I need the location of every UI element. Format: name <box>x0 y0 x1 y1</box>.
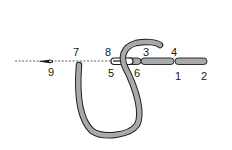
label-4: 4 <box>171 47 177 58</box>
label-6: 6 <box>134 68 140 79</box>
needle-icon <box>38 60 53 64</box>
label-9: 9 <box>48 67 54 78</box>
label-5: 5 <box>108 68 114 79</box>
label-3: 3 <box>143 47 149 58</box>
label-2: 2 <box>201 71 207 82</box>
stitch-segment-1-2 <box>175 58 207 65</box>
label-7: 7 <box>73 47 79 58</box>
label-1: 1 <box>175 71 181 82</box>
stitch-diagram <box>0 0 232 150</box>
stitch-segment-3-4 <box>141 58 174 65</box>
label-8: 8 <box>105 47 111 58</box>
